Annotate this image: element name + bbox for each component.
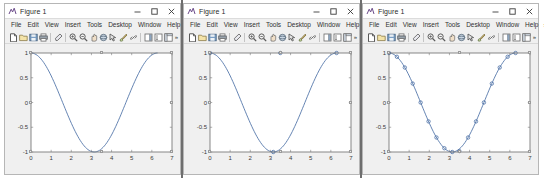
data-cursor-icon[interactable]: [466, 32, 476, 43]
axes-resize-handle[interactable]: [458, 150, 461, 153]
axes-resize-handle[interactable]: [387, 101, 390, 104]
figure-window-2[interactable]: Figure 1FileEditViewInsertToolsDesktopWi…: [183, 3, 360, 175]
close-button[interactable]: [163, 4, 180, 19]
brush-icon[interactable]: [297, 32, 307, 43]
insert-colorbar-icon[interactable]: [501, 32, 511, 43]
axes-resize-handle[interactable]: [528, 101, 531, 104]
axes-resize-handle[interactable]: [100, 150, 103, 153]
plot-area-3[interactable]: 01234567-1-0.500.51: [363, 44, 538, 174]
data-cursor-icon[interactable]: [287, 32, 297, 43]
menu-item-help[interactable]: Help: [164, 20, 183, 30]
axes-resize-handle[interactable]: [528, 51, 531, 54]
menu-item-edit[interactable]: Edit: [382, 20, 399, 30]
minimize-button[interactable]: [487, 4, 504, 19]
save-figure-icon[interactable]: [386, 32, 396, 43]
plot-area-1[interactable]: 01234567-1-0.500.51: [5, 44, 180, 174]
insert-colorbar-icon[interactable]: [143, 32, 153, 43]
menu-item-edit[interactable]: Edit: [203, 20, 220, 30]
title-bar[interactable]: Figure 1: [5, 4, 180, 19]
zoom-in-icon[interactable]: [426, 32, 436, 43]
edit-plot-icon[interactable]: [232, 32, 242, 43]
print-figure-icon[interactable]: [396, 32, 406, 43]
maximize-button[interactable]: [146, 4, 163, 19]
edit-plot-icon[interactable]: [411, 32, 421, 43]
insert-legend-icon[interactable]: [511, 32, 521, 43]
menu-item-tools[interactable]: Tools: [442, 20, 463, 30]
pan-icon[interactable]: [446, 32, 456, 43]
save-figure-icon[interactable]: [207, 32, 217, 43]
link-plot-icon[interactable]: [128, 32, 138, 43]
menu-item-desktop[interactable]: Desktop: [284, 20, 314, 30]
pan-icon[interactable]: [88, 32, 98, 43]
pan-icon[interactable]: [267, 32, 277, 43]
axes-resize-handle[interactable]: [170, 51, 173, 54]
menu-item-insert[interactable]: Insert: [241, 20, 263, 30]
axes-resize-handle[interactable]: [29, 51, 32, 54]
zoom-out-icon[interactable]: [436, 32, 446, 43]
new-figure-icon[interactable]: [8, 32, 18, 43]
show-plot-tools-icon[interactable]: [342, 32, 352, 43]
open-file-icon[interactable]: [18, 32, 28, 43]
close-button[interactable]: [521, 4, 538, 19]
plot-area-2[interactable]: 01234567-1-0.500.51: [184, 44, 359, 174]
menu-item-edit[interactable]: Edit: [24, 20, 41, 30]
menu-item-tools[interactable]: Tools: [84, 20, 105, 30]
menu-item-insert[interactable]: Insert: [420, 20, 442, 30]
axes-resize-handle[interactable]: [387, 150, 390, 153]
axes-resize-handle[interactable]: [29, 150, 32, 153]
toolbar-overflow-icon[interactable]: »: [354, 34, 359, 40]
minimize-button[interactable]: [129, 4, 146, 19]
link-plot-icon[interactable]: [486, 32, 496, 43]
menu-item-window[interactable]: Window: [493, 20, 522, 30]
menu-item-desktop[interactable]: Desktop: [105, 20, 135, 30]
menu-item-window[interactable]: Window: [135, 20, 164, 30]
title-bar[interactable]: Figure 1: [184, 4, 359, 19]
figure-window-1[interactable]: Figure 1FileEditViewInsertToolsDesktopWi…: [4, 3, 181, 175]
maximize-button[interactable]: [325, 4, 342, 19]
menu-item-view[interactable]: View: [221, 20, 241, 30]
axes-resize-handle[interactable]: [100, 51, 103, 54]
insert-legend-icon[interactable]: [332, 32, 342, 43]
zoom-in-icon[interactable]: [68, 32, 78, 43]
axes-resize-handle[interactable]: [170, 101, 173, 104]
toolbar-overflow-icon[interactable]: »: [175, 34, 180, 40]
maximize-button[interactable]: [504, 4, 521, 19]
minimize-button[interactable]: [308, 4, 325, 19]
data-cursor-icon[interactable]: [108, 32, 118, 43]
menu-item-help[interactable]: Help: [522, 20, 541, 30]
new-figure-icon[interactable]: [366, 32, 376, 43]
zoom-in-icon[interactable]: [247, 32, 257, 43]
open-file-icon[interactable]: [376, 32, 386, 43]
menu-item-file[interactable]: File: [8, 20, 24, 30]
rotate-3d-icon[interactable]: [98, 32, 108, 43]
axes-resize-handle[interactable]: [349, 51, 352, 54]
axes-resize-handle[interactable]: [349, 101, 352, 104]
show-plot-tools-icon[interactable]: [521, 32, 531, 43]
title-bar[interactable]: Figure 1: [363, 4, 538, 19]
menu-item-desktop[interactable]: Desktop: [463, 20, 493, 30]
axes-resize-handle[interactable]: [170, 150, 173, 153]
rotate-3d-icon[interactable]: [456, 32, 466, 43]
axes-resize-handle[interactable]: [279, 51, 282, 54]
rotate-3d-icon[interactable]: [277, 32, 287, 43]
brush-icon[interactable]: [118, 32, 128, 43]
print-figure-icon[interactable]: [38, 32, 48, 43]
zoom-out-icon[interactable]: [78, 32, 88, 43]
zoom-out-icon[interactable]: [257, 32, 267, 43]
axes-resize-handle[interactable]: [458, 51, 461, 54]
new-figure-icon[interactable]: [187, 32, 197, 43]
open-file-icon[interactable]: [197, 32, 207, 43]
save-figure-icon[interactable]: [28, 32, 38, 43]
show-plot-tools-icon[interactable]: [163, 32, 173, 43]
menu-item-tools[interactable]: Tools: [263, 20, 284, 30]
axes-resize-handle[interactable]: [208, 150, 211, 153]
close-button[interactable]: [342, 4, 359, 19]
menu-item-file[interactable]: File: [366, 20, 382, 30]
menu-item-view[interactable]: View: [400, 20, 420, 30]
menu-item-help[interactable]: Help: [343, 20, 362, 30]
brush-icon[interactable]: [476, 32, 486, 43]
edit-plot-icon[interactable]: [53, 32, 63, 43]
axes-resize-handle[interactable]: [279, 150, 282, 153]
axes-resize-handle[interactable]: [29, 101, 32, 104]
menu-item-view[interactable]: View: [42, 20, 62, 30]
